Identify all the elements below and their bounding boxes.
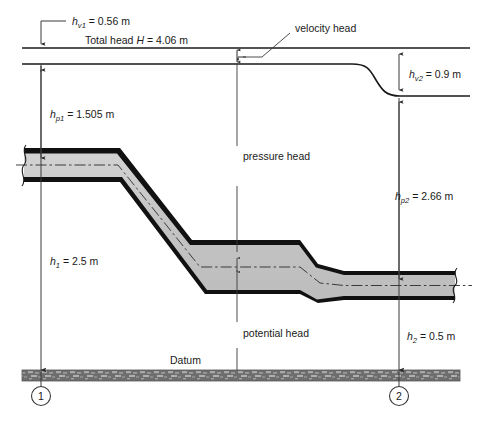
velocity-head-1-subscript: v1	[78, 21, 86, 30]
station-marker-2[interactable]: 2	[390, 387, 409, 406]
total-head-label: Total head H = 4.06 m	[85, 34, 188, 46]
pressure-head-2-value: = 2.66 m	[409, 190, 453, 202]
station-marker-1[interactable]: 1	[32, 387, 51, 406]
potential-head-callout-label: potential head	[243, 327, 309, 339]
pressure-head-callout-label: pressure head	[243, 150, 310, 162]
velocity-head-1-value: = 0.56 m	[86, 15, 130, 27]
pressure-head-1-value: = 1.505 m	[64, 108, 114, 120]
elevation-head-2-value: = 0.5 m	[417, 330, 455, 342]
velocity-head-callout-label: velocity head	[295, 22, 356, 34]
total-head-prefix: Total head	[85, 34, 136, 46]
station-1-label: 1	[38, 390, 44, 402]
velocity-head-2-value: = 0.9 m	[423, 68, 461, 80]
total-head-value: = 4.06 m	[144, 34, 188, 46]
elevation-head-1-value: = 2.5 m	[60, 255, 98, 267]
hydraulic-grade-line-figure: 1 2 hv1 = 0.56 m Total head H = 4.06 m v…	[0, 0, 488, 423]
datum-bar	[22, 370, 460, 381]
pressure-head-1-subscript: p1	[55, 114, 64, 123]
datum-label: Datum	[170, 354, 201, 366]
station-2-label: 2	[396, 390, 402, 402]
